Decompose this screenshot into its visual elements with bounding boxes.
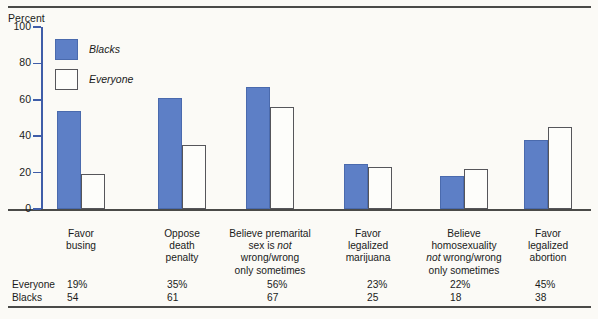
- category-label-line: marijuana: [322, 252, 414, 264]
- table-cell-everyone-5: 45%: [535, 279, 555, 290]
- category-label-line: Favor: [503, 228, 593, 240]
- category-label-line: legalized: [322, 240, 414, 252]
- bar-everyone-5: [548, 127, 572, 209]
- y-axis-tick-20: [33, 172, 41, 174]
- category-label-line: only sometimes: [408, 265, 520, 277]
- bar-everyone-4: [464, 169, 488, 209]
- chart-legend: Blacks Everyone: [55, 37, 133, 97]
- bar-blacks-4: [440, 176, 464, 209]
- table-cell-blacks-3: 25: [367, 292, 378, 303]
- category-label-2: Believe premaritalsex is notwrong/wrongo…: [211, 228, 329, 277]
- y-axis-label-0: 0: [0, 202, 31, 214]
- category-label-line: busing: [37, 240, 125, 252]
- y-axis-label-60: 60: [0, 93, 31, 105]
- category-label-line: only sometimes: [211, 265, 329, 277]
- legend-item-blacks: Blacks: [55, 37, 133, 61]
- category-label-line: sex is not: [211, 240, 329, 252]
- bar-blacks-0: [57, 111, 81, 209]
- bar-blacks-1: [158, 98, 182, 209]
- y-axis-label-40: 40: [0, 129, 31, 141]
- chart-figure: Percent 100806040200 Blacks Everyone Fav…: [0, 0, 598, 319]
- table-cell-everyone-2: 56%: [267, 279, 287, 290]
- legend-label-blacks: Blacks: [89, 43, 120, 55]
- table-cell-blacks-1: 61: [167, 292, 178, 303]
- table-cell-everyone-1: 35%: [167, 279, 187, 290]
- table-cell-everyone-3: 23%: [367, 279, 387, 290]
- legend-swatch-everyone: [55, 69, 78, 90]
- table-cell-blacks-0: 54: [67, 292, 78, 303]
- bar-everyone-3: [368, 167, 392, 209]
- x-axis-baseline: [8, 209, 591, 211]
- y-axis-tick-0: [33, 208, 41, 210]
- bottom-divider-rule: [8, 306, 591, 308]
- y-axis-tick-80: [33, 63, 41, 65]
- bar-blacks-3: [344, 164, 368, 210]
- bar-everyone-0: [81, 174, 105, 209]
- y-axis-tick-60: [33, 99, 41, 101]
- category-label-line: Favor: [322, 228, 414, 240]
- category-label-0: Favorbusing: [37, 228, 125, 252]
- y-axis-label-100: 100: [0, 20, 31, 32]
- legend-item-everyone: Everyone: [55, 67, 133, 91]
- y-axis-tick-40: [33, 135, 41, 137]
- y-axis-line: [41, 27, 43, 210]
- table-row-label-everyone: Everyone: [12, 279, 55, 290]
- table-cell-blacks-2: 67: [267, 292, 278, 303]
- category-label-line: Believe premarital: [211, 228, 329, 240]
- y-axis-tick-100: [33, 26, 41, 28]
- table-row-label-blacks: Blacks: [12, 292, 42, 303]
- bar-blacks-2: [246, 87, 270, 209]
- legend-label-everyone: Everyone: [89, 73, 133, 85]
- table-cell-everyone-0: 19%: [67, 279, 87, 290]
- bar-everyone-1: [182, 145, 206, 209]
- top-divider-rule: [8, 6, 591, 8]
- legend-swatch-blacks: [55, 39, 78, 60]
- category-label-line: abortion: [503, 252, 593, 264]
- table-cell-blacks-4: 18: [450, 292, 461, 303]
- bar-everyone-2: [270, 107, 294, 209]
- y-axis-label-20: 20: [0, 166, 31, 178]
- table-cell-blacks-5: 38: [535, 292, 546, 303]
- category-label-line: wrong/wrong: [211, 252, 329, 264]
- category-label-3: Favorlegalizedmarijuana: [322, 228, 414, 265]
- bar-blacks-5: [524, 140, 548, 209]
- category-label-5: Favorlegalizedabortion: [503, 228, 593, 265]
- category-label-line: Favor: [37, 228, 125, 240]
- y-axis-label-80: 80: [0, 56, 31, 68]
- table-cell-everyone-4: 22%: [450, 279, 470, 290]
- category-label-line: legalized: [503, 240, 593, 252]
